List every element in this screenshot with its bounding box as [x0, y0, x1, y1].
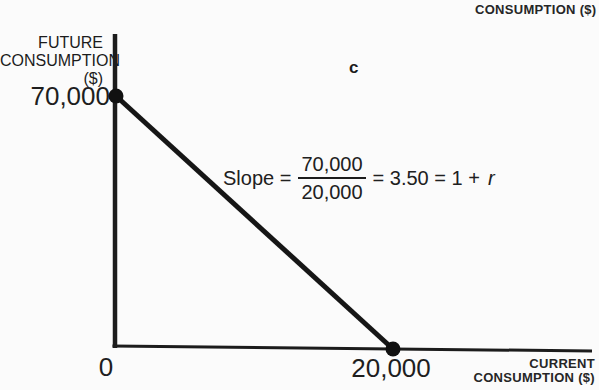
slope-equation: Slope = 70,000 20,000 = 3.50 = 1 + r	[223, 151, 495, 205]
slope-fraction-numerator: 70,000	[298, 153, 365, 179]
endpoint-dot-future-consumption	[109, 89, 124, 104]
x-axis-tick-label-20000: 20,000	[331, 355, 451, 381]
slope-equation-result: = 3.50 = 1 +	[373, 167, 480, 190]
origin-label: 0	[93, 354, 119, 380]
slope-fraction: 70,000 20,000	[298, 153, 365, 203]
x-axis-title-line-2: CONSUMPTION ($)	[474, 371, 596, 385]
slope-fraction-denominator: 20,000	[301, 179, 362, 203]
interest-rate-symbol: r	[487, 167, 495, 190]
budget-constraint-line	[116, 96, 393, 349]
x-axis-line	[113, 346, 593, 351]
slope-equation-prefix: Slope =	[223, 167, 291, 190]
x-axis-title-line-1: CURRENT	[474, 357, 596, 371]
x-axis-title: CURRENT CONSUMPTION ($)	[474, 357, 596, 385]
